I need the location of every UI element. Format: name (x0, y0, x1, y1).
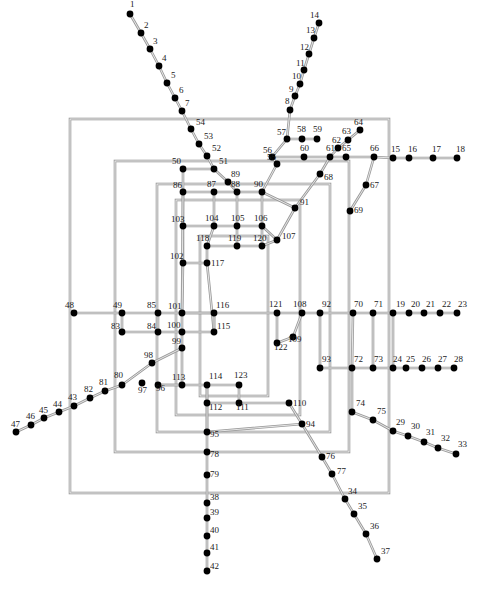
node-27[interactable] (435, 365, 442, 372)
node-68[interactable] (317, 171, 324, 178)
node-30[interactable] (405, 433, 412, 440)
node-73[interactable] (370, 365, 377, 372)
node-59[interactable] (314, 136, 321, 143)
node-81[interactable] (102, 388, 109, 395)
node-80[interactable] (119, 382, 126, 389)
node-label-95: 95 (210, 429, 220, 439)
node-91[interactable] (292, 205, 299, 212)
node-90[interactable] (259, 189, 266, 196)
node-114[interactable] (204, 382, 211, 389)
node-121[interactable] (274, 310, 281, 317)
node-77[interactable] (329, 471, 336, 478)
node-62[interactable] (335, 145, 342, 152)
node-37[interactable] (374, 556, 381, 563)
node-label-35: 35 (358, 501, 368, 511)
node-36[interactable] (363, 531, 370, 538)
node-1[interactable] (127, 11, 134, 18)
node-82[interactable] (87, 395, 94, 402)
node-60[interactable] (301, 154, 308, 161)
node-7[interactable] (179, 108, 186, 115)
node-98[interactable] (149, 360, 156, 367)
node-label-100: 100 (167, 320, 181, 330)
node-75[interactable] (370, 417, 377, 424)
node-label-75: 75 (377, 406, 387, 416)
node-16[interactable] (406, 155, 413, 162)
node-4[interactable] (156, 63, 163, 70)
node-53[interactable] (196, 141, 203, 148)
node-44[interactable] (56, 409, 63, 416)
node-88[interactable] (234, 189, 241, 196)
node-104[interactable] (211, 223, 218, 230)
node-54[interactable] (188, 126, 195, 133)
node-24[interactable] (390, 365, 397, 372)
node-28[interactable] (451, 365, 458, 372)
node-14[interactable] (316, 20, 323, 27)
node-31[interactable] (421, 439, 428, 446)
node-71[interactable] (370, 310, 377, 317)
node-45[interactable] (41, 415, 48, 422)
network-svg: 1234567891011121314151617181920212223242… (0, 0, 478, 589)
node-66[interactable] (371, 154, 378, 161)
node-108[interactable] (299, 310, 306, 317)
node-35[interactable] (351, 511, 358, 518)
node-18[interactable] (454, 155, 461, 162)
node-2[interactable] (138, 30, 145, 37)
node-3[interactable] (147, 46, 154, 53)
node-48[interactable] (71, 310, 78, 317)
node-87[interactable] (211, 189, 218, 196)
node-10[interactable] (297, 81, 304, 88)
node-23[interactable] (454, 310, 461, 317)
node-8[interactable] (287, 107, 294, 114)
node-29[interactable] (390, 428, 397, 435)
node-118[interactable] (204, 243, 211, 250)
node-50[interactable] (180, 166, 187, 173)
node-113[interactable] (179, 382, 186, 389)
node-17[interactable] (430, 155, 437, 162)
node-93[interactable] (317, 365, 324, 372)
node-94[interactable] (299, 421, 306, 428)
node-19[interactable] (390, 310, 397, 317)
node-26[interactable] (419, 365, 426, 372)
node-67[interactable] (363, 182, 370, 189)
node-49[interactable] (119, 310, 126, 317)
node-65[interactable] (343, 154, 350, 161)
node-label-77: 77 (337, 466, 347, 476)
node-13[interactable] (311, 35, 318, 42)
node-22[interactable] (437, 310, 444, 317)
node-51[interactable] (211, 166, 218, 173)
node-107[interactable] (274, 237, 281, 244)
node-69[interactable] (347, 208, 354, 215)
node-123[interactable] (236, 382, 243, 389)
node-117[interactable] (204, 260, 211, 267)
node-72[interactable] (349, 365, 356, 372)
node-20[interactable] (406, 310, 413, 317)
node-61[interactable] (327, 154, 334, 161)
node-15[interactable] (390, 155, 397, 162)
node-52[interactable] (204, 153, 211, 160)
node-58[interactable] (299, 136, 306, 143)
node-74[interactable] (349, 409, 356, 416)
node-43[interactable] (71, 403, 78, 410)
node-34[interactable] (342, 496, 349, 503)
node-76[interactable] (319, 454, 326, 461)
node-32[interactable] (435, 445, 442, 452)
node-116[interactable] (211, 310, 218, 317)
node-46[interactable] (28, 422, 35, 429)
node-label-103: 103 (171, 214, 185, 224)
node-92[interactable] (317, 310, 324, 317)
node-106[interactable] (259, 223, 266, 230)
node-47[interactable] (13, 429, 20, 436)
node-85[interactable] (155, 310, 162, 317)
node-70[interactable] (350, 310, 357, 317)
node-119[interactable] (234, 243, 241, 250)
node-25[interactable] (403, 365, 410, 372)
node-33[interactable] (453, 451, 460, 458)
node-5[interactable] (164, 80, 171, 87)
node-21[interactable] (421, 310, 428, 317)
node-label-6: 6 (179, 85, 184, 95)
node-110[interactable] (286, 400, 293, 407)
node-120[interactable] (259, 243, 266, 250)
node-64[interactable] (357, 127, 364, 134)
node-6[interactable] (172, 95, 179, 102)
node-105[interactable] (234, 223, 241, 230)
